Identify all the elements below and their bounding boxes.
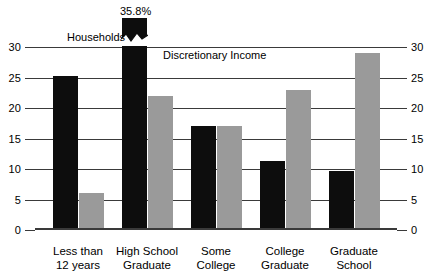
series-label-households: Households [67,31,125,44]
y-axis-label-right: 15 [411,134,423,145]
y-axis-label-left: 10 [9,164,21,175]
bar-discretionary-income-0 [79,193,104,230]
y-tick-right [397,169,407,170]
y-tick-right [397,200,407,201]
gridline [35,47,397,48]
y-axis-label-left: 25 [9,73,21,84]
x-axis-line [35,228,397,230]
y-axis-label-right: 20 [411,103,423,114]
y-axis-label-right: 5 [411,195,417,206]
y-tick-left [25,200,35,201]
bar-households-4 [329,171,354,230]
y-tick-right [397,108,407,109]
y-axis-label-left: 30 [9,42,21,53]
y-tick-left [25,47,35,48]
y-tick-right [397,47,407,48]
y-axis-label-left: 0 [15,225,21,236]
y-axis-label-left: 5 [15,195,21,206]
gridline [35,78,397,79]
bar-discretionary-income-4 [355,53,380,230]
y-tick-left [25,230,35,231]
bar-households-3 [260,161,285,230]
y-tick-right [397,230,407,231]
value-label-high-school-households: 35.8% [120,6,151,17]
bar-households-1 [122,18,147,230]
y-axis-label-left: 20 [9,103,21,114]
y-axis-label-right: 10 [411,164,423,175]
y-tick-left [25,108,35,109]
series-label-discretionary-income: Discretionary Income [163,49,266,62]
bar-discretionary-income-2 [217,126,242,230]
x-axis-category-label-4: Graduate School [309,244,399,272]
y-tick-left [25,78,35,79]
bar-chart: 303025252020151510105500 35.8% Household… [0,0,432,280]
gridline [35,108,397,109]
bar-discretionary-income-3 [286,90,311,230]
y-tick-right [397,139,407,140]
y-axis-label-left: 15 [9,134,21,145]
bar-households-2 [191,126,216,230]
y-tick-left [25,169,35,170]
y-axis-label-right: 0 [411,225,417,236]
y-tick-right [397,78,407,79]
bar-discretionary-income-1 [148,96,173,230]
y-axis-label-right: 25 [411,73,423,84]
y-axis-label-right: 30 [411,42,423,53]
y-tick-left [25,139,35,140]
bar-households-0 [53,76,78,230]
